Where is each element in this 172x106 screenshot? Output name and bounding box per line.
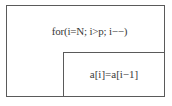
loop-condition-text: for(i=N; i>p; i−−): [52, 25, 128, 37]
loop-body-statement: a[i]=a[i−1]: [90, 68, 138, 80]
loop-header: for(i=N; i>p; i−−): [7, 6, 164, 53]
for-loop-block: for(i=N; i>p; i−−) a[i]=a[i−1]: [6, 5, 165, 97]
loop-body-block: a[i]=a[i−1]: [63, 52, 164, 96]
